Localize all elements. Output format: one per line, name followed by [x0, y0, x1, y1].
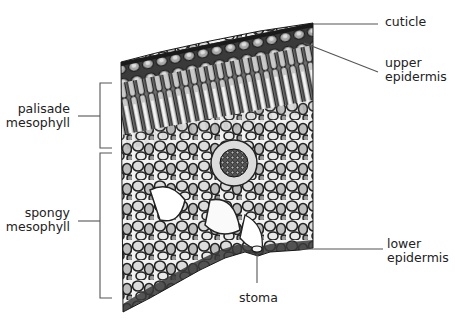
leaf-cross-section-diagram: cuticle upper epidermis palisade mesophy… — [0, 0, 455, 330]
label-stoma: stoma — [239, 291, 278, 305]
label-lower-epidermis: lower epidermis — [387, 237, 449, 265]
label-cuticle: cuticle — [385, 15, 426, 29]
label-spongy-mesophyll: spongy mesophyll — [6, 206, 70, 234]
upper-epidermis-leader-line — [304, 43, 378, 72]
leaf-illustration — [0, 0, 455, 330]
palisade-bracket — [100, 83, 112, 148]
label-palisade-mesophyll: palisade mesophyll — [6, 102, 70, 130]
spongy-bracket — [100, 153, 112, 298]
label-upper-epidermis: upper epidermis — [385, 56, 447, 84]
leaf-tissue — [100, 0, 330, 330]
